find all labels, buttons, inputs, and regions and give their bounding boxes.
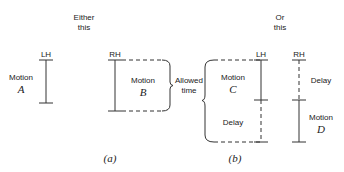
- motion-c-text: Motion: [216, 73, 250, 83]
- motion-c-letter: C: [216, 83, 250, 95]
- allowed-time-line1: Allowed: [174, 76, 204, 86]
- motion-d-text: Motion: [304, 113, 338, 123]
- delay-d-label: Delay: [306, 76, 336, 86]
- motion-c-label: Motion C: [216, 73, 250, 95]
- motion-d-label: Motion D: [304, 113, 338, 135]
- label-rh-a: RH: [107, 50, 123, 60]
- heading-or: Or this: [260, 13, 300, 33]
- heading-or-line2: this: [260, 23, 300, 33]
- allowed-time-line2: time: [174, 86, 204, 96]
- delay-c-label: Delay: [218, 118, 248, 128]
- heading-either-line1: Either: [64, 13, 104, 23]
- motion-b-label: Motion B: [126, 76, 160, 98]
- heading-or-line1: Or: [260, 13, 300, 23]
- motion-a-text: Motion: [6, 73, 36, 83]
- label-lh-a: LH: [38, 50, 54, 60]
- caption-b: (b): [220, 152, 250, 164]
- heading-either: Either this: [64, 13, 104, 33]
- label-lh-b: LH: [253, 50, 269, 60]
- heading-either-line2: this: [64, 23, 104, 33]
- allowed-time-label: Allowed time: [174, 76, 204, 96]
- motion-b-text: Motion: [126, 76, 160, 86]
- motion-d-letter: D: [304, 123, 338, 135]
- caption-a: (a): [95, 152, 125, 164]
- motion-a-letter: A: [6, 83, 36, 95]
- label-rh-b: RH: [291, 50, 307, 60]
- motion-a-label: Motion A: [6, 73, 36, 95]
- motion-b-letter: B: [126, 86, 160, 98]
